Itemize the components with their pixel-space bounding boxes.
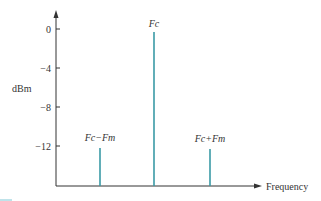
spectrum-chart: 0 −4 −8 −12 dBm Frequency Fc−Fm Fc Fc+Fm bbox=[0, 0, 321, 201]
decorative-bar bbox=[0, 199, 12, 201]
y-tick-minus8: −8 bbox=[40, 102, 51, 113]
y-tick-0: 0 bbox=[46, 24, 51, 35]
x-axis-arrow-icon bbox=[254, 184, 262, 189]
y-tick-minus12: −12 bbox=[35, 141, 51, 152]
x-axis-label: Frequency bbox=[266, 181, 308, 192]
lower-sideband-label: Fc−Fm bbox=[84, 132, 116, 143]
y-tick-minus4: −4 bbox=[40, 63, 51, 74]
carrier-label: Fc bbox=[148, 18, 160, 29]
y-axis-label: dBm bbox=[12, 83, 32, 94]
upper-sideband-label: Fc+Fm bbox=[194, 133, 226, 144]
y-axis-arrow-icon bbox=[54, 10, 59, 18]
